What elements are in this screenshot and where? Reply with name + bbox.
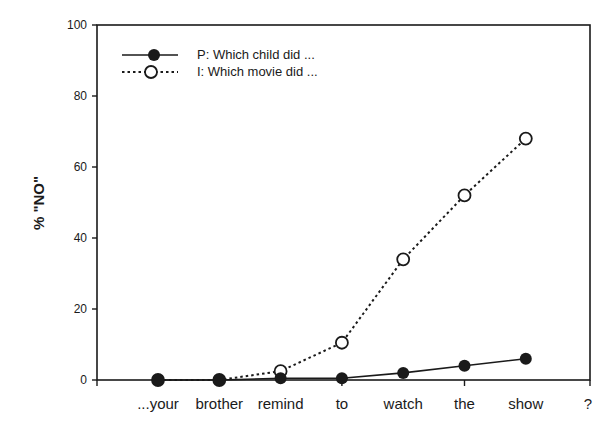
- series-p-which-child: [152, 353, 532, 386]
- filled-circle-marker: [520, 353, 532, 365]
- series-i-which-movie: [152, 133, 532, 386]
- filled-circle-marker: [275, 372, 287, 384]
- legend-open-circle-icon: [145, 66, 157, 78]
- legend-label-p: P: Which child did ...: [197, 47, 315, 62]
- y-tick-label: 60: [74, 160, 88, 174]
- y-tick-label: 0: [80, 373, 87, 387]
- y-tick-label: 40: [74, 231, 88, 245]
- x-category-label: brother: [196, 395, 244, 412]
- x-category-label: the: [454, 395, 475, 412]
- plot-border: [97, 25, 590, 380]
- series-group: [152, 133, 532, 386]
- x-category-label: watch: [383, 395, 423, 412]
- x-category-label: ?: [584, 395, 592, 412]
- open-circle-marker: [520, 133, 532, 145]
- x-category-label: ...your: [137, 395, 179, 412]
- line-chart: 020406080100 ...yourbrotherremindtowatch…: [0, 0, 613, 434]
- filled-circle-marker: [152, 374, 164, 386]
- open-circle-marker: [336, 337, 348, 349]
- open-circle-marker: [397, 253, 409, 265]
- legend-filled-circle-icon: [148, 49, 160, 61]
- filled-circle-marker: [397, 367, 409, 379]
- filled-circle-marker: [459, 360, 471, 372]
- plot-frame: [97, 25, 590, 380]
- x-category-label: show: [508, 395, 543, 412]
- legend: P: Which child did ...I: Which movie did…: [122, 47, 318, 79]
- filled-circle-marker: [213, 374, 225, 386]
- x-category-label: to: [336, 395, 349, 412]
- y-axis: 020406080100: [67, 18, 97, 387]
- legend-label-i: I: Which movie did ...: [197, 64, 318, 79]
- y-tick-label: 100: [67, 18, 87, 32]
- x-category-label: remind: [258, 395, 304, 412]
- y-tick-label: 80: [74, 89, 88, 103]
- y-axis-label: % "NO": [30, 176, 47, 230]
- x-axis: ...yourbrotherremindtowatchtheshow?: [97, 380, 592, 412]
- filled-circle-marker: [336, 372, 348, 384]
- y-tick-label: 20: [74, 302, 88, 316]
- open-circle-marker: [459, 189, 471, 201]
